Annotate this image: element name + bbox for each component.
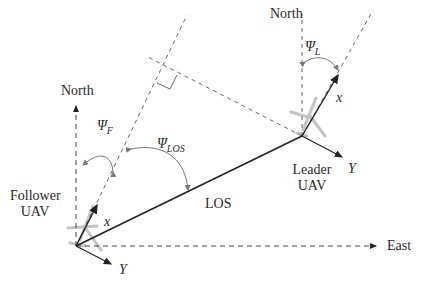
psi-los-label: ΨLOS	[157, 136, 185, 153]
east-label: East	[387, 238, 411, 254]
follower-uav-label: Follower UAV	[10, 188, 60, 220]
uav-los-diagram: North North East Follower UAV Leader UAV…	[0, 0, 422, 290]
los-label: LOS	[205, 196, 231, 212]
psi-f-arc	[83, 156, 113, 172]
follower-y-label: Y	[119, 262, 127, 278]
right-angle-marker	[157, 75, 177, 89]
leader-north-label: North	[270, 6, 303, 22]
diagram-canvas	[0, 0, 422, 290]
perpendicular-line	[148, 57, 302, 136]
psi-l-label: ΨL	[305, 39, 320, 56]
follower-y-axis	[76, 246, 111, 264]
leader-x-label: x	[336, 90, 342, 106]
follower-x-label: x	[104, 214, 110, 230]
leader-aircraft-icon	[291, 98, 325, 136]
leader-y-axis	[302, 136, 342, 157]
psi-f-label: ΨF	[97, 118, 113, 135]
leader-y-label: Y	[348, 161, 356, 177]
follower-heading-line	[76, 15, 187, 246]
psi-l-arc	[305, 58, 338, 70]
leader-uav-label: Leader UAV	[292, 162, 332, 194]
follower-north-label: North	[61, 83, 94, 99]
